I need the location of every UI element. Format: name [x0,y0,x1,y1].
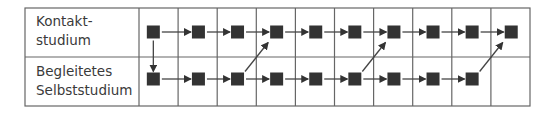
study-flow-diagram: Kontakt- studium Begleitetes Selbststudi… [0,0,554,113]
step-node [387,26,400,39]
step-node [270,26,283,39]
step-node [231,73,244,86]
step-node [147,73,160,86]
label-line: studium [36,31,93,50]
step-node [427,26,440,39]
label-line: Begleitetes [36,62,132,81]
label-line: Selbststudium [36,81,132,100]
step-node [427,73,440,86]
step-node [309,73,322,86]
step-node [348,73,361,86]
step-node [387,73,400,86]
step-node [309,26,322,39]
step-node [505,26,518,39]
step-node [348,26,361,39]
step-node [192,26,205,39]
row-label-kontaktstudium: Kontakt- studium [36,12,93,50]
step-node [270,73,283,86]
step-node [466,73,479,86]
step-node [231,26,244,39]
step-node [147,26,160,39]
label-line: Kontakt- [36,12,93,31]
step-node [466,26,479,39]
row-label-selbststudium: Begleitetes Selbststudium [36,62,132,100]
step-node [192,73,205,86]
